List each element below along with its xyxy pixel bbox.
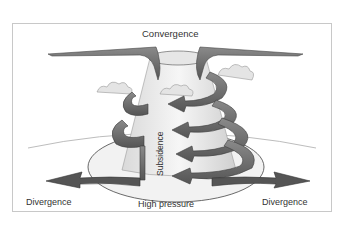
divergence-left-label: Divergence: [26, 197, 72, 207]
subsidence-label: Subsidence: [155, 132, 165, 176]
convergence-arrow-left: [48, 47, 160, 80]
high-pressure-label: High pressure: [138, 199, 194, 209]
divergence-right-label: Divergence: [262, 197, 308, 207]
convergence-label: Convergence: [142, 28, 199, 39]
